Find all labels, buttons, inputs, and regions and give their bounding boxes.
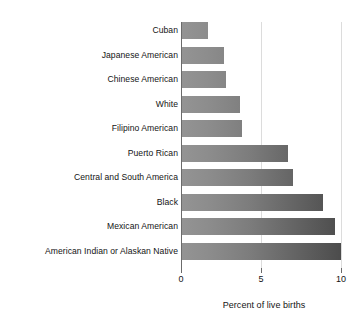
bar-row: [181, 47, 224, 64]
bar: [181, 145, 288, 162]
bar: [181, 194, 323, 211]
bar: [181, 120, 242, 137]
category-label: Chinese American: [0, 71, 178, 88]
category-label: Black: [0, 194, 178, 211]
category-label: Mexican American: [0, 218, 178, 235]
bar: [181, 218, 335, 235]
category-label: Japanese American: [0, 47, 178, 64]
bar: [181, 47, 224, 64]
tick-mark-10: [341, 268, 342, 273]
bar-row: [181, 96, 240, 113]
bar: [181, 22, 208, 39]
category-label: Cuban: [0, 22, 178, 39]
tick-mark-5: [261, 268, 262, 273]
category-label: American Indian or Alaskan Native: [0, 243, 178, 260]
bar: [181, 243, 344, 260]
bar: [181, 96, 240, 113]
bar-row: [181, 169, 293, 186]
tick-mark-0: [181, 268, 182, 273]
bar-chart: CubanJapanese AmericanChinese AmericanWh…: [0, 0, 353, 328]
category-label: Central and South America: [0, 169, 178, 186]
plot-area: [181, 22, 341, 268]
bar: [181, 71, 226, 88]
x-axis-title: Percent of live births: [181, 300, 347, 310]
value-axis-line: [181, 22, 182, 268]
bar-row: [181, 218, 335, 235]
bar-row: [181, 145, 288, 162]
tick-label-5: 5: [246, 274, 276, 284]
tick-label-10: 10: [326, 274, 353, 284]
bar: [181, 169, 293, 186]
bar-row: [181, 194, 323, 211]
bar-row: [181, 120, 242, 137]
category-label: Filipino American: [0, 120, 178, 137]
tick-label-0: 0: [166, 274, 196, 284]
category-label: White: [0, 96, 178, 113]
bar-row: [181, 71, 226, 88]
bar-row: [181, 22, 208, 39]
bar-row: [181, 243, 344, 260]
gridline-10: [341, 22, 342, 268]
category-label: Puerto Rican: [0, 145, 178, 162]
